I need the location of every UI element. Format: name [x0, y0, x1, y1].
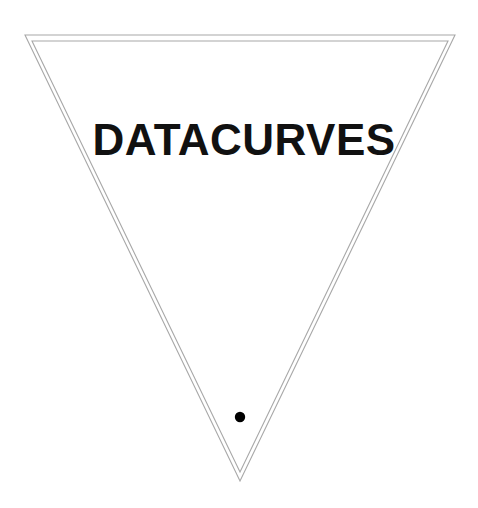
emblem-canvas: DATACURVES: [0, 0, 478, 508]
center-dot-marker: [235, 412, 245, 422]
emblem-graphic: DATACURVES: [0, 0, 478, 508]
wordmark-label: DATACURVES: [92, 115, 395, 164]
canvas-background: [0, 0, 478, 508]
